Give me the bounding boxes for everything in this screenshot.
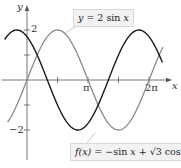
- label-var: x: [124, 12, 129, 23]
- y-axis-label: y: [17, 1, 23, 12]
- tick-label-pi: π: [83, 82, 90, 93]
- label-rhs: = 2 sin: [83, 12, 123, 23]
- label-rhs1: = −sin: [91, 146, 130, 157]
- tick-label-2pi: 2π: [145, 82, 158, 93]
- x-axis-label: x: [172, 80, 178, 91]
- label-f-x: f(x) = −sin x + √3 cos x: [70, 143, 181, 161]
- label-rhs2: + √3 cos: [136, 146, 181, 157]
- y-axis-arrow-icon: [25, 5, 29, 11]
- tick-label-neg2: −2: [9, 124, 24, 135]
- tick-label-2: 2: [31, 23, 37, 34]
- label-2-sin-x: y = 2 sin x: [73, 9, 134, 27]
- top-label-leader: [64, 26, 76, 34]
- label-fx: f(x): [75, 146, 91, 157]
